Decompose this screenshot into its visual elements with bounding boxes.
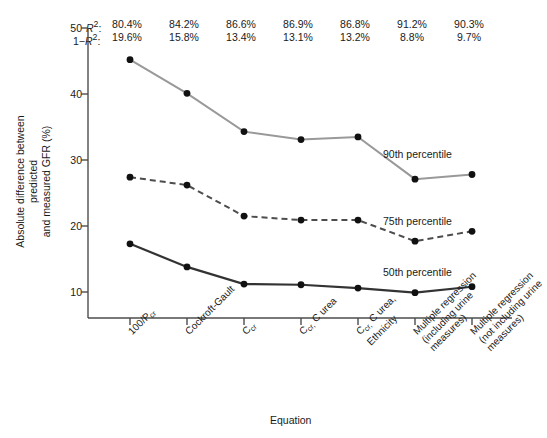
data-point-s0-p6 bbox=[469, 171, 476, 178]
data-point-s2-p5 bbox=[412, 289, 419, 296]
data-point-s0-p0 bbox=[127, 56, 134, 63]
data-point-s1-p6 bbox=[469, 228, 476, 235]
data-point-s1-p4 bbox=[355, 217, 362, 224]
series-layer bbox=[127, 56, 476, 296]
data-point-s1-p2 bbox=[241, 213, 248, 220]
data-point-s1-p3 bbox=[298, 217, 305, 224]
data-point-s2-p3 bbox=[298, 281, 305, 288]
data-point-s1-p5 bbox=[412, 238, 419, 245]
data-point-s0-p5 bbox=[412, 176, 419, 183]
series-label-50th: 50th percentile bbox=[383, 266, 452, 278]
data-point-s0-p3 bbox=[298, 136, 305, 143]
data-point-s2-p0 bbox=[127, 240, 134, 247]
series-label-75th: 75th percentile bbox=[383, 215, 452, 227]
series-line-0 bbox=[130, 60, 472, 179]
series-line-1 bbox=[130, 177, 472, 241]
x-axis-title: Equation bbox=[270, 414, 311, 426]
data-point-s1-p1 bbox=[184, 182, 191, 189]
data-point-s0-p4 bbox=[355, 134, 362, 141]
data-point-s2-p4 bbox=[355, 285, 362, 292]
data-point-s1-p0 bbox=[127, 174, 134, 181]
data-point-s0-p2 bbox=[241, 128, 248, 135]
data-point-s0-p1 bbox=[184, 90, 191, 97]
data-point-s2-p1 bbox=[184, 264, 191, 271]
series-label-90th: 90th percentile bbox=[383, 148, 452, 160]
data-point-s2-p2 bbox=[241, 281, 248, 288]
